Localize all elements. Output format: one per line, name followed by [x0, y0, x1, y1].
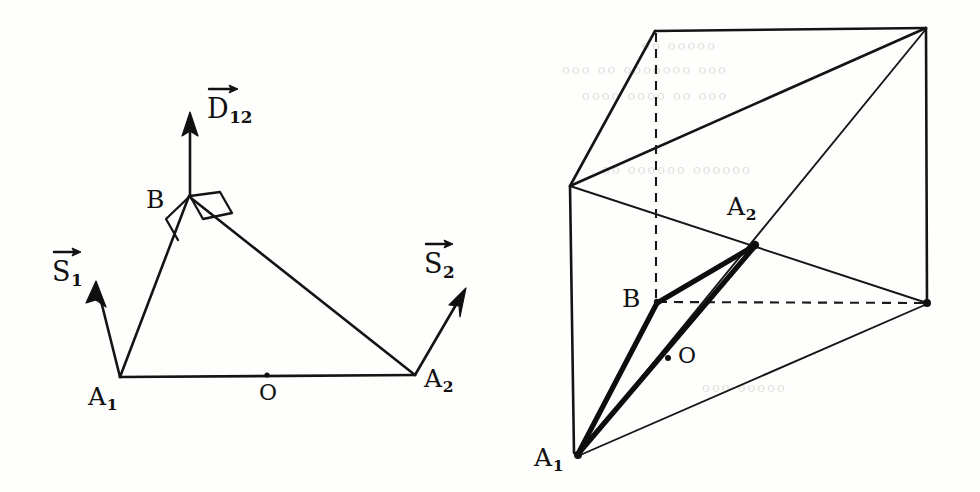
vertex-label-b-left: B: [146, 185, 165, 214]
vertex-label-a2-left: A2: [424, 364, 454, 396]
vertex-label-a2-right-subscript: 2: [745, 205, 756, 224]
segment-dashed-horizontal: [658, 302, 924, 303]
segment-topleft-topright: [655, 28, 926, 31]
vertex-dot-a1-right: [574, 451, 582, 459]
vertex-label-a2-left-letter: A: [424, 364, 442, 393]
vertex-label-a1-right: A1: [534, 443, 564, 475]
vector-label-d12-letter: D: [207, 93, 229, 124]
vector-label-d12: D12: [207, 82, 252, 126]
vertex-label-a1-left: A1: [88, 382, 118, 414]
vector-b-a2-bold: [657, 246, 754, 303]
midpoint-dot-o-left: [264, 372, 269, 377]
vertex-label-b-right: B: [622, 284, 641, 313]
diagram-canvas: [0, 0, 980, 492]
vertex-label-a1-right-letter: A: [534, 443, 552, 472]
figure-page: ooooo oo ooo ooooooo oo ooo ooo oo oooo …: [0, 0, 980, 492]
vector-label-s1: S1: [52, 245, 83, 289]
segment-topleft-leftmid: [570, 31, 655, 186]
vector-s1-arrowhead: [86, 281, 106, 307]
vector-label-s1-subscript: 1: [71, 270, 83, 290]
vertex-label-a2-right: A2: [727, 192, 757, 224]
origin-label-o-right: O: [678, 343, 696, 368]
vertex-label-a1-left-subscript: 1: [106, 395, 117, 414]
segment-right-vertical: [926, 28, 927, 302]
right-figure-group: [570, 28, 931, 459]
vector-label-s1-letter: S: [52, 256, 71, 287]
segment-a1-b: [120, 196, 189, 377]
vector-s1-shaft: [100, 297, 120, 377]
vertex-dot-rightbottom: [923, 299, 931, 307]
segment-a1-rightbottom: [578, 304, 927, 456]
vertex-dot-a2-right: [751, 241, 759, 249]
vertex-label-a2-left-subscript: 2: [442, 377, 453, 396]
vector-label-s2: S2: [424, 237, 455, 281]
segment-b-a2: [191, 198, 415, 375]
vertex-label-a2-right-letter: A: [727, 192, 745, 221]
vertex-dot-b-right: [654, 299, 660, 305]
vector-label-s2-letter: S: [424, 248, 443, 279]
left-figure-group: [86, 112, 466, 378]
vector-arrow-overbar-s2: [425, 237, 455, 249]
midpoint-dot-o-right: [665, 355, 671, 361]
vertex-label-a1-left-letter: A: [88, 382, 106, 411]
vector-a1-a2-bold: [578, 246, 755, 454]
vector-arrow-overbar-d12: [208, 82, 238, 94]
vector-arrow-overbar-s1: [53, 245, 83, 257]
segment-leftmid-topright: [570, 28, 926, 186]
segment-left-vertical: [570, 186, 574, 453]
origin-label-o-left: O: [259, 380, 277, 405]
vector-label-d12-subscript: 12: [229, 107, 253, 127]
vector-label-s2-subscript: 2: [443, 262, 455, 282]
vertex-label-a1-right-subscript: 1: [552, 456, 563, 475]
